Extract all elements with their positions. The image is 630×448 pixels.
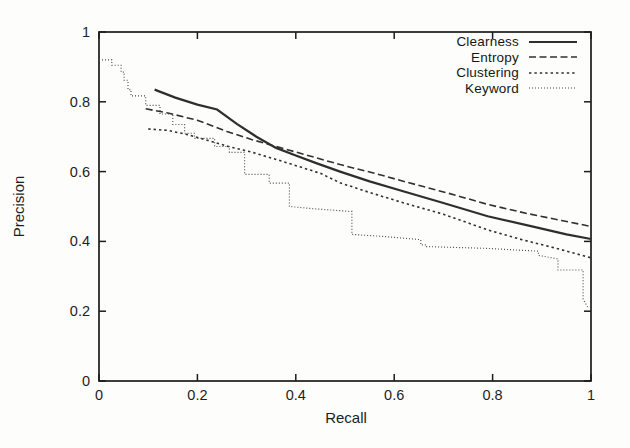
legend-sample-clearness-line [528,39,578,45]
y-tick-label: 1 [82,24,90,40]
legend-label-entropy: Entropy [471,50,519,65]
x-tick-label: 1 [587,387,595,403]
x-tick-label: 0.4 [286,387,306,403]
y-tick-label: 0 [82,373,90,389]
legend: ClearnessEntropyClusteringKeyword [398,34,578,96]
x-tick-label: 0.8 [483,387,503,403]
x-tick-label: 0.2 [187,387,207,403]
legend-sample-entropy-line [528,54,578,60]
legend-row-keyword: Keyword [398,81,578,97]
legend-label-keyword: Keyword [465,81,519,96]
series-line-clearness [155,90,591,239]
x-tick-label: 0.6 [384,387,404,403]
legend-row-clearness: Clearness [398,34,578,50]
x-tick-label: 0 [95,387,103,403]
y-tick-label: 0.4 [70,233,90,249]
legend-row-clustering: Clustering [398,65,578,81]
precision-recall-figure: 00.20.40.60.8100.20.40.60.81 Recall Prec… [0,0,630,448]
y-axis-label: Precision [10,127,27,287]
y-tick-label: 0.8 [70,94,90,110]
series-line-entropy [146,109,591,227]
y-tick-label: 0.2 [70,303,90,319]
series-line-clustering [148,129,591,258]
legend-sample-clustering-line [528,70,578,76]
legend-label-clearness: Clearness [456,34,519,49]
legend-sample-keyword-line [528,85,578,91]
y-tick-label: 0.6 [70,164,90,180]
legend-row-entropy: Entropy [398,50,578,66]
legend-label-clustering: Clustering [456,65,519,80]
x-axis-label: Recall [246,409,446,426]
